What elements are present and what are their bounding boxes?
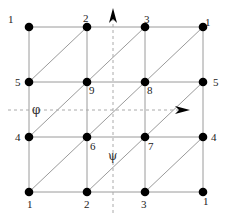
grid-node — [25, 78, 34, 87]
grid-node — [141, 188, 150, 197]
node-label: 1 — [205, 16, 211, 28]
grid-node — [25, 133, 34, 142]
triangulated-grid-diagram: 1231598546741231 φ ψ — [0, 0, 227, 216]
cell-diagonal — [29, 137, 87, 192]
node-label: 6 — [90, 140, 96, 152]
node-label: 5 — [15, 76, 21, 88]
node-label: 1 — [8, 13, 14, 25]
node-label: 2 — [84, 198, 90, 210]
cell-diagonal — [145, 137, 203, 192]
grid-node — [199, 133, 208, 142]
node-label: 2 — [83, 12, 89, 24]
node-label: 1 — [27, 198, 33, 210]
cell-diagonal — [87, 137, 145, 192]
node-label: 3 — [141, 198, 147, 210]
phi-axis-label: φ — [32, 103, 40, 117]
grid-node — [83, 188, 92, 197]
node-label: 1 — [203, 195, 209, 207]
cell-diagonal — [145, 27, 203, 82]
node-label: 8 — [147, 84, 153, 96]
grid-node — [199, 78, 208, 87]
node-label: 7 — [148, 140, 154, 152]
grid-node — [25, 188, 34, 197]
node-label: 9 — [89, 84, 95, 96]
node-label: 4 — [15, 131, 21, 143]
psi-axis-label: ψ — [108, 149, 117, 163]
node-label: 3 — [144, 13, 150, 25]
cell-diagonal — [29, 27, 87, 82]
cell-diagonal — [87, 27, 145, 82]
node-label: 5 — [213, 76, 219, 88]
node-label: 4 — [211, 131, 217, 143]
grid-node — [25, 23, 34, 32]
